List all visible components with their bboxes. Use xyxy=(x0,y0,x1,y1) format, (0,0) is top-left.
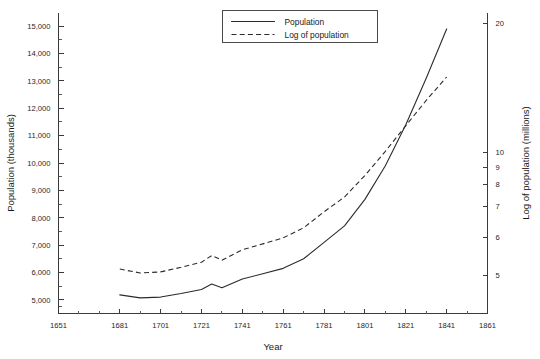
y-tick-label-right: 20 xyxy=(496,19,504,28)
x-tick-label: 1651 xyxy=(50,321,67,330)
y-tick-label-right: 7 xyxy=(496,202,500,211)
y-tick-label-right: 5 xyxy=(496,271,500,280)
y-tick-label-left: 12,000 xyxy=(27,104,50,113)
x-tick-label: 1741 xyxy=(234,321,251,330)
y-tick-label-left: 13,000 xyxy=(27,77,50,86)
y-tick-label-left: 8,000 xyxy=(31,214,50,223)
population-line-chart: 5,0006,0007,0008,0009,00010,00011,00012,… xyxy=(0,0,540,359)
tick-labels-group: 5,0006,0007,0008,0009,00010,00011,00012,… xyxy=(27,19,504,329)
y-tick-label-left: 5,000 xyxy=(31,296,50,305)
series-log-of-population xyxy=(120,77,447,273)
y-tick-label-right: 10 xyxy=(496,148,504,157)
plot-frame xyxy=(59,13,488,314)
data-series-group xyxy=(120,29,447,298)
x-tick-label: 1841 xyxy=(438,321,455,330)
y-tick-label-left: 14,000 xyxy=(27,49,50,58)
y-tick-label-right: 6 xyxy=(496,233,500,242)
axis-titles-group: YearPopulation (thousands)Log of populat… xyxy=(5,106,531,352)
y-tick-label-left: 15,000 xyxy=(27,22,50,31)
x-tick-label: 1701 xyxy=(152,321,169,330)
y-tick-label-left: 7,000 xyxy=(31,241,50,250)
y-axis-title-left: Population (thousands) xyxy=(5,114,16,212)
y-tick-label-right: 8 xyxy=(496,180,500,189)
legend-label: Log of population xyxy=(285,30,350,40)
series-population xyxy=(120,29,447,298)
y-tick-label-left: 11,000 xyxy=(28,131,51,140)
x-tick-label: 1721 xyxy=(193,321,210,330)
chart-legend: PopulationLog of population xyxy=(223,11,378,43)
x-tick-label: 1781 xyxy=(316,321,333,330)
y-tick-label-left: 9,000 xyxy=(31,186,50,195)
x-tick-label: 1861 xyxy=(479,321,496,330)
y-tick-label-left: 6,000 xyxy=(31,268,50,277)
legend-label: Population xyxy=(285,17,325,27)
chart-figure: 5,0006,0007,0008,0009,00010,00011,00012,… xyxy=(0,0,540,359)
x-tick-label: 1821 xyxy=(397,321,414,330)
x-tick-label: 1681 xyxy=(111,321,128,330)
y-axis-title-right: Log of population (millions) xyxy=(520,106,531,220)
axes-group xyxy=(59,13,488,314)
y-tick-label-right: 9 xyxy=(496,163,500,172)
x-axis-title: Year xyxy=(263,341,282,352)
x-tick-label: 1761 xyxy=(275,321,292,330)
y-tick-label-left: 10,000 xyxy=(27,159,50,168)
x-tick-label: 1801 xyxy=(356,321,373,330)
